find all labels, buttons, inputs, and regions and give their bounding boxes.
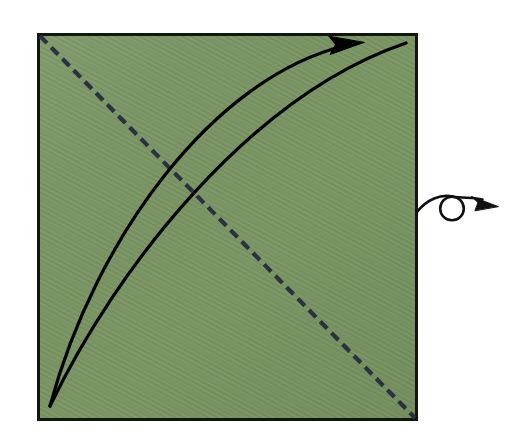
diagram-canvas	[0, 0, 530, 444]
origami-diagram: Origami step: valley-fold bottom-left co…	[0, 0, 530, 444]
turn-over-arrow-head	[472, 197, 499, 211]
turn-over-symbol	[417, 196, 498, 220]
turn-over-loop-circle	[440, 197, 464, 221]
